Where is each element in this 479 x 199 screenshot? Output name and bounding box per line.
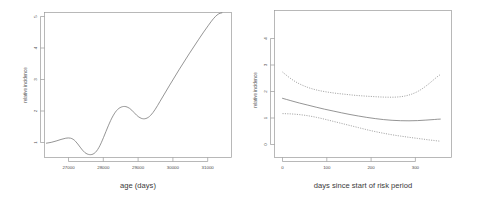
- left-x-axis-title: age (days): [120, 181, 156, 190]
- right-y-axis-title: relative incidence: [253, 72, 258, 108]
- left-y-ticklabel-4: 4: [33, 46, 38, 49]
- right-y-ticklabel-1: 1: [263, 116, 268, 119]
- left-x-ticklabels: 27000 28000 29000 30000 31000: [62, 165, 214, 170]
- left-y-ticklabel-2: 2: [33, 109, 38, 112]
- right-panel-plot: 4 3 2 1 0 0 100 200 300: [240, 0, 479, 199]
- right-x-ticklabel-100: 100: [323, 165, 331, 170]
- figure-container: 5 4 3 2 1 27000 28000 29000 30000: [0, 0, 479, 199]
- right-x-ticks: [283, 158, 416, 162]
- right-y-ticklabels: 4 3 2 1 0: [263, 37, 268, 146]
- left-x-ticklabel-27000: 27000: [62, 165, 75, 170]
- right-y-ticklabel-0: 0: [263, 143, 268, 146]
- upper-confidence-curve: [283, 72, 441, 97]
- right-x-ticklabels: 0 100 200 300: [281, 165, 419, 170]
- estimate-curve: [283, 98, 441, 121]
- lower-confidence-curve: [283, 114, 441, 142]
- left-y-axis-title: relative incidence: [23, 67, 28, 103]
- right-x-ticklabel-200: 200: [367, 165, 375, 170]
- left-y-ticklabels: 5 4 3 2 1: [33, 15, 38, 144]
- left-panel-plot: 5 4 3 2 1 27000 28000 29000 30000: [0, 0, 239, 199]
- right-y-ticklabel-4: 4: [263, 37, 268, 40]
- left-x-ticks: [69, 158, 208, 162]
- left-x-ticklabel-29000: 29000: [132, 165, 145, 170]
- right-x-ticklabel-300: 300: [412, 165, 420, 170]
- left-x-ticklabel-28000: 28000: [97, 165, 110, 170]
- left-x-ticklabel-31000: 31000: [202, 165, 215, 170]
- left-y-ticklabel-5: 5: [33, 15, 38, 18]
- right-y-ticklabel-3: 3: [263, 63, 268, 66]
- left-series-group: [46, 13, 222, 155]
- left-y-ticklabel-1: 1: [33, 141, 38, 144]
- left-x-ticklabel-30000: 30000: [167, 165, 180, 170]
- left-y-ticks: [41, 17, 45, 143]
- right-x-axis-title: days since start of risk period: [314, 181, 412, 190]
- right-plot-frame: [275, 11, 452, 158]
- right-series-group: [283, 72, 441, 141]
- age-effect-curve: [46, 13, 222, 155]
- left-plot-frame: [45, 13, 232, 158]
- panel-risk-period-effect: 4 3 2 1 0 0 100 200 300: [240, 0, 479, 199]
- left-y-ticklabel-3: 3: [33, 78, 38, 81]
- right-y-ticklabel-2: 2: [263, 90, 268, 93]
- right-y-ticks: [271, 39, 275, 145]
- panel-age-effect: 5 4 3 2 1 27000 28000 29000 30000: [0, 0, 239, 199]
- right-x-ticklabel-0: 0: [281, 165, 284, 170]
